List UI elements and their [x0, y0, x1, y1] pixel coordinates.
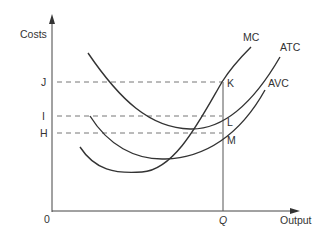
- l-label: L: [227, 117, 233, 128]
- q-label: Q: [219, 215, 227, 226]
- atc-curve: [88, 53, 280, 129]
- h-label: H: [40, 128, 48, 139]
- i-label: I: [42, 111, 45, 122]
- atc-label: ATC: [280, 42, 300, 53]
- y-axis-arrow-icon: [49, 14, 55, 24]
- m-label: M: [227, 135, 236, 146]
- k-label: K: [227, 78, 234, 89]
- y-axis-label: Costs: [20, 29, 47, 40]
- diagram-canvas: [0, 0, 330, 241]
- x-axis-label: Output: [280, 215, 312, 226]
- avc-curve: [90, 90, 265, 159]
- origin-label: 0: [44, 214, 50, 225]
- mc-curve: [80, 47, 251, 172]
- cost-curves-diagram: Costs J I H 0 Q Output K L M MC ATC AVC: [0, 0, 330, 241]
- j-label: J: [41, 77, 46, 88]
- avc-label: AVC: [268, 78, 289, 89]
- mc-label: MC: [243, 32, 259, 43]
